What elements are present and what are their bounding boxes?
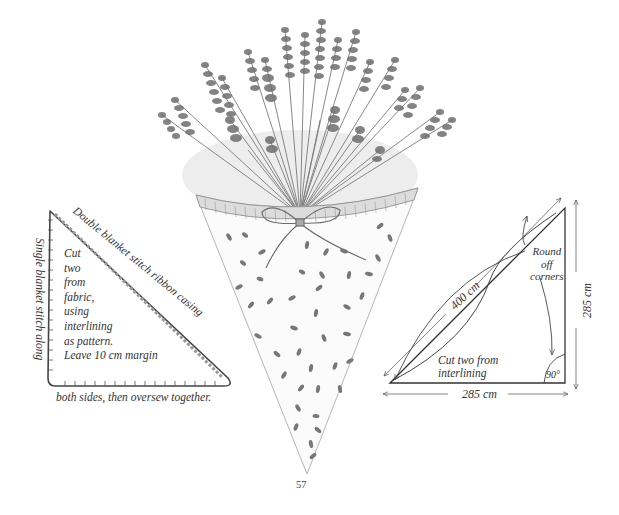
single-stitch-label: Single blanket stitch along — [34, 238, 46, 360]
note-line: corners — [530, 270, 564, 283]
cut-interlining-note: Cut two from interlining — [438, 354, 498, 380]
round-corners-note: Round off corners — [530, 245, 564, 283]
note-line: off — [530, 258, 564, 271]
note-line: interlining — [438, 367, 498, 380]
instruction-line: Cut — [64, 246, 158, 261]
height-dimension: 285 cm — [581, 283, 593, 318]
note-line: Round — [530, 245, 564, 258]
instruction-line: fabric, — [64, 290, 158, 305]
instruction-line: from — [64, 275, 158, 290]
right-angle-label: 90° — [546, 370, 560, 380]
width-dimension: 285 cm — [462, 388, 497, 400]
fabric-cone-icon — [196, 188, 418, 474]
instruction-line: interlining — [64, 319, 158, 334]
oversew-label: both sides, then oversew together. — [56, 392, 211, 404]
note-line: Cut two from — [438, 354, 498, 367]
page-number: 57 — [296, 479, 307, 490]
book-page: Double blanket stitch ribbon casing Sing… — [0, 0, 619, 515]
instruction-line: as pattern. — [64, 334, 158, 349]
instruction-line: Leave 10 cm margin — [64, 348, 158, 363]
instruction-line: two — [64, 261, 158, 276]
instruction-line: using — [64, 304, 158, 319]
cut-instructions: Cut two from fabric, using interlining a… — [64, 246, 158, 363]
